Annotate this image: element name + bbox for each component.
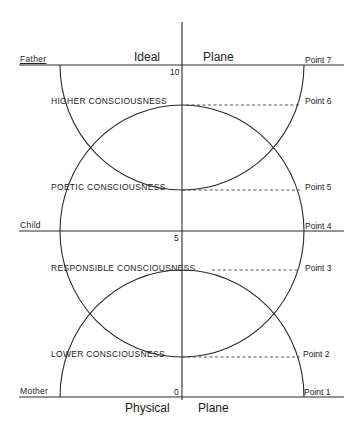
mother-label: Mother xyxy=(20,387,48,396)
child-label: Child xyxy=(20,221,41,230)
point-3-label: Point 3 xyxy=(305,264,331,273)
point-4-label: Point 4 xyxy=(305,222,331,231)
axis-tick-5: 5 xyxy=(174,234,179,243)
responsible-consciousness-label: RESPONSIBLE CONSCIOUSNESS xyxy=(51,264,195,273)
axis-tick-0: 0 xyxy=(174,388,179,397)
father-label: Father xyxy=(20,55,46,64)
poetic-consciousness-label: POETIC CONSCIOUSNESS xyxy=(51,183,166,192)
ideal-label: Ideal xyxy=(134,51,160,63)
point-6-label: Point 6 xyxy=(305,97,331,106)
point-2-label: Point 2 xyxy=(303,350,329,359)
point-1-label: Point 1 xyxy=(304,388,330,397)
physical-label: Physical xyxy=(125,402,170,414)
physical-plane-label: Plane xyxy=(198,402,229,414)
lower-consciousness-label: LOWER CONSCIOUSNESS xyxy=(51,350,165,359)
axis-tick-10: 10 xyxy=(170,68,179,77)
higher-consciousness-label: HIGHER CONSCIOUSNESS xyxy=(51,97,167,106)
point-7-label: Point 7 xyxy=(305,56,331,65)
point-5-label: Point 5 xyxy=(305,183,331,192)
ideal-plane-label: Plane xyxy=(203,51,234,63)
